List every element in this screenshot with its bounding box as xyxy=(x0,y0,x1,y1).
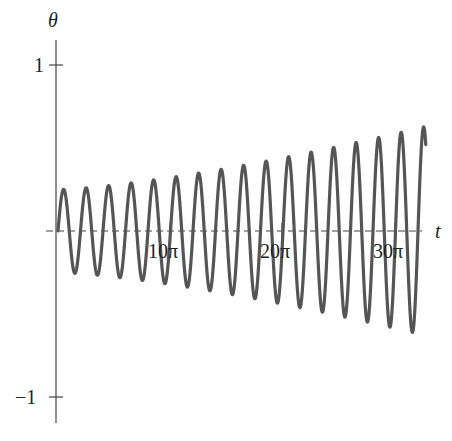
chart: θ 1 −1 t 10π 20π 30π xyxy=(0,0,452,441)
y-tick-label-1: 1 xyxy=(34,54,44,76)
theta-curve xyxy=(58,127,426,332)
x-axis-label: t xyxy=(435,220,441,242)
x-tick-label-30pi: 30π xyxy=(373,240,403,262)
y-axis-label: θ xyxy=(48,9,58,31)
x-tick-label-10pi: 10π xyxy=(148,240,178,262)
x-tick-label-20pi: 20π xyxy=(260,240,290,262)
y-tick-label-neg1: −1 xyxy=(15,386,36,408)
